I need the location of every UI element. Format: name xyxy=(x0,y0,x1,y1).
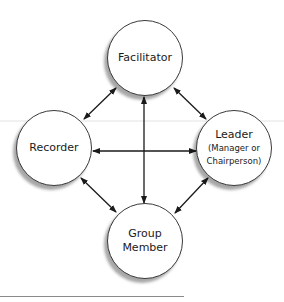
node-label: Facilitator xyxy=(118,51,172,65)
arrow-facilitator-leader xyxy=(174,88,206,119)
node-leader: Leader (Manager or Chairperson) xyxy=(196,110,272,186)
node-label: Leader xyxy=(215,128,253,142)
bottom-divider xyxy=(0,296,184,297)
arrow-recorder-facilitator xyxy=(84,88,116,119)
node-label-line1: Group xyxy=(128,227,162,241)
node-facilitator: Facilitator xyxy=(107,20,183,96)
node-sublabel-line1: (Manager or xyxy=(208,142,260,155)
arrow-recorder-groupmember xyxy=(81,178,116,212)
diagram-canvas: Facilitator Recorder Leader (Manager or … xyxy=(0,0,284,302)
node-label-line2: Member xyxy=(122,241,167,255)
node-sublabel-line2: Chairperson) xyxy=(207,155,262,168)
node-group-member: Group Member xyxy=(107,203,183,279)
node-recorder: Recorder xyxy=(16,110,92,186)
node-label: Recorder xyxy=(29,141,78,155)
arrow-leader-groupmember xyxy=(175,178,208,213)
